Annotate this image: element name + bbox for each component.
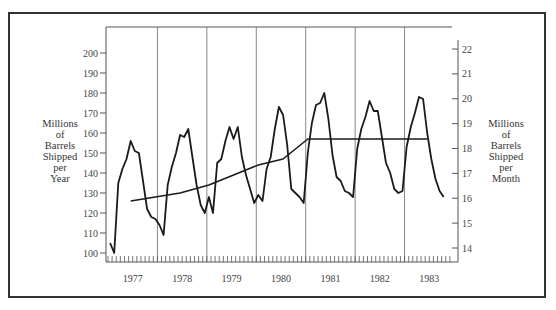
left-tick-label: 110 [83, 228, 98, 239]
right-tick-label: 17 [462, 168, 472, 179]
x-year-label: 1983 [419, 273, 439, 284]
left-tick-label: 150 [83, 148, 98, 159]
left-tick-label: 170 [83, 108, 98, 119]
right-tick-label: 22 [462, 44, 472, 55]
right-tick-label: 15 [462, 218, 472, 229]
left-tick-label: 180 [83, 88, 98, 99]
right-tick-label: 18 [462, 143, 472, 154]
x-year-label: 1980 [271, 273, 291, 284]
x-year-label: 1981 [320, 273, 340, 284]
left-tick-label: 140 [83, 168, 98, 179]
monthly-shipments-line [110, 93, 444, 253]
right-tick-label: 19 [462, 118, 472, 129]
right-tick-label: 16 [462, 193, 472, 204]
left-tick-label: 200 [83, 48, 98, 59]
data-series [110, 93, 444, 253]
x-year-label: 1982 [370, 273, 390, 284]
year-gridlines [157, 27, 404, 262]
right-tick-label: 14 [462, 243, 472, 254]
left-tick-label: 160 [83, 128, 98, 139]
line-chart: 1977197819791980198119821983100110120130… [0, 0, 556, 310]
x-year-label: 1979 [222, 273, 242, 284]
trend-line [131, 139, 428, 201]
right-tick-label: 20 [462, 93, 472, 104]
left-tick-label: 120 [83, 208, 98, 219]
right-tick-label: 21 [462, 68, 472, 79]
x-year-label: 1977 [123, 273, 143, 284]
axes [106, 27, 458, 262]
left-tick-label: 130 [83, 188, 98, 199]
left-tick-label: 190 [83, 68, 98, 79]
x-year-label: 1978 [172, 273, 192, 284]
left-tick-label: 100 [83, 248, 98, 259]
